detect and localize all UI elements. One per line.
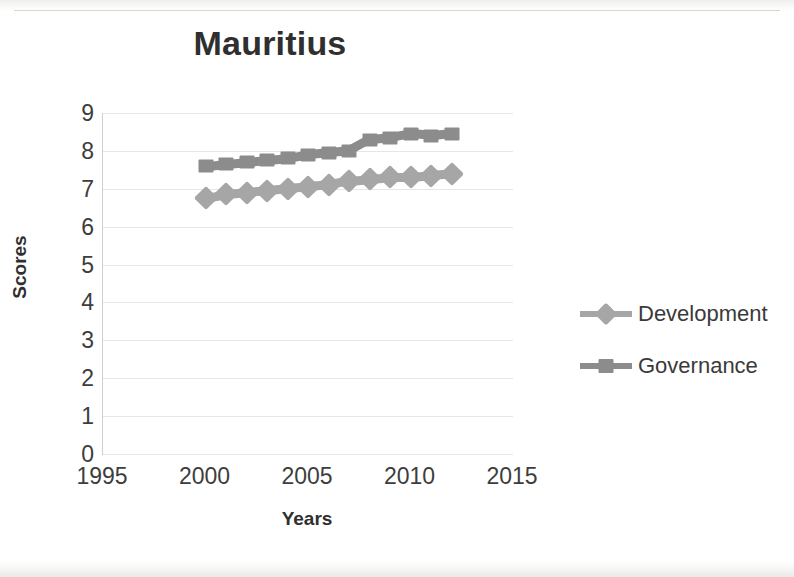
data-point-marker — [234, 181, 258, 205]
y-axis-tick-labels: 0123456789 — [44, 113, 94, 454]
data-point-marker — [403, 127, 418, 140]
x-axis-tick-labels: 19952000200520102015 — [102, 463, 512, 497]
x-tick-label: 2015 — [486, 463, 537, 490]
y-tick-label: 3 — [50, 327, 94, 354]
y-tick-label: 6 — [50, 213, 94, 240]
data-point-marker — [193, 186, 217, 210]
data-point-marker — [275, 177, 299, 201]
data-point-marker — [357, 167, 381, 191]
legend-marker-diamond-icon — [595, 303, 618, 326]
x-tick-label: 2005 — [281, 463, 332, 490]
gridline — [103, 454, 513, 455]
chart-title: Mauritius — [0, 24, 540, 63]
data-point-marker — [444, 127, 459, 140]
data-point-marker — [337, 169, 361, 193]
data-point-marker — [321, 146, 336, 159]
x-tick-label: 2000 — [179, 463, 230, 490]
data-point-marker — [260, 154, 275, 167]
x-tick-label: 1995 — [76, 463, 127, 490]
legend-item[interactable]: Development — [578, 288, 788, 340]
legend-item[interactable]: Governance — [578, 340, 788, 392]
data-point-marker — [280, 152, 295, 165]
data-point-marker — [383, 131, 398, 144]
y-tick-label: 4 — [50, 289, 94, 316]
data-point-marker — [362, 133, 377, 146]
plot-area — [102, 113, 513, 455]
data-point-marker — [198, 160, 213, 173]
data-series-layer — [103, 113, 513, 454]
data-point-marker — [296, 175, 320, 199]
y-axis-title: Scores — [9, 207, 31, 327]
legend-label: Governance — [634, 353, 758, 379]
y-tick-label: 1 — [50, 403, 94, 430]
data-point-marker — [301, 148, 316, 161]
data-point-marker — [398, 165, 422, 189]
legend-key — [578, 356, 634, 376]
data-point-marker — [239, 156, 254, 169]
y-tick-label: 5 — [50, 251, 94, 278]
data-point-marker — [255, 179, 279, 203]
chart-legend: DevelopmentGovernance — [578, 288, 788, 392]
x-tick-label: 2010 — [384, 463, 435, 490]
data-point-marker — [316, 173, 340, 197]
legend-marker-square-icon — [599, 359, 614, 373]
y-tick-label: 2 — [50, 365, 94, 392]
x-axis-title: Years — [102, 508, 512, 530]
data-point-marker — [424, 129, 439, 142]
chart-figure: Mauritius Scores 0123456789 199520002005… — [0, 0, 794, 577]
y-tick-label: 9 — [50, 100, 94, 127]
data-point-marker — [378, 165, 402, 189]
data-point-marker — [419, 163, 443, 187]
legend-label: Development — [634, 301, 768, 327]
legend-key — [578, 304, 634, 324]
y-tick-label: 7 — [50, 175, 94, 202]
data-point-marker — [214, 182, 238, 206]
data-point-marker — [219, 158, 234, 171]
data-point-marker — [342, 144, 357, 157]
y-tick-label: 8 — [50, 137, 94, 164]
data-point-marker — [439, 162, 463, 186]
